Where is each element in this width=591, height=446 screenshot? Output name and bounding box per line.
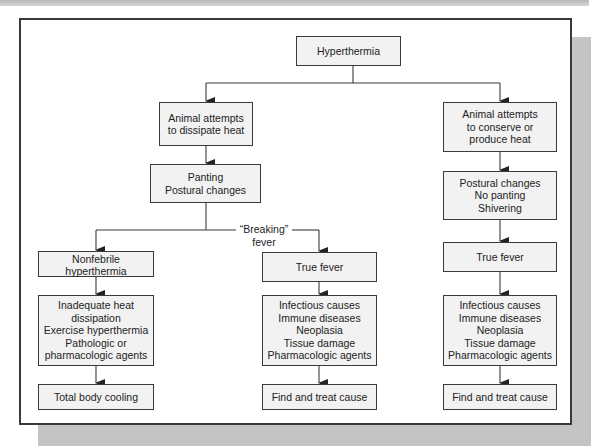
- edge-label-breaking-fever: “Breaking” fever: [236, 223, 292, 248]
- node-nonfebrile-hyperthermia: Nonfebrile hyperthermia: [38, 251, 154, 277]
- node-true-fever-right: True fever: [443, 242, 557, 272]
- node-fever-causes-middle: Infectious causes Immune diseases Neopla…: [262, 295, 377, 366]
- node-find-treat-cause-middle: Find and treat cause: [262, 384, 377, 410]
- node-nonfebrile-causes: Inadequate heat dissipation Exercise hyp…: [38, 295, 154, 366]
- node-find-treat-cause-right: Find and treat cause: [443, 384, 557, 410]
- node-total-body-cooling: Total body cooling: [38, 384, 154, 410]
- node-conserve-heat: Animal attempts to conserve or produce h…: [443, 102, 557, 152]
- node-fever-causes-right: Infectious causes Immune diseases Neopla…: [443, 295, 557, 366]
- node-no-panting: Postural changes No panting Shivering: [443, 171, 557, 220]
- node-panting: Panting Postural changes: [150, 164, 261, 203]
- node-true-fever-middle: True fever: [262, 252, 377, 282]
- node-dissipate-heat: Animal attempts to dissipate heat: [159, 102, 253, 146]
- node-hyperthermia: Hyperthermia: [296, 36, 401, 66]
